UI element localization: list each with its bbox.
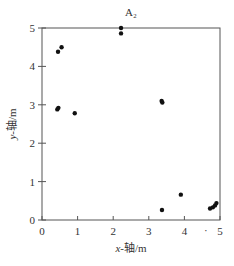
y-tick-label: 2 [30,137,36,149]
y-tick-label: 3 [30,99,36,111]
data-point [56,50,60,54]
x-tick-label: 0 [39,225,45,237]
x-axis-title: x-轴/m [114,241,147,254]
x-tick-label: 5 [217,225,223,237]
chart-title: A₂ [125,6,137,18]
annotation-dot: · [204,224,208,236]
data-point [73,111,77,115]
x-tick-label: 4 [182,225,188,237]
data-point [179,192,183,196]
data-point [119,26,123,30]
y-tick-label: 0 [30,214,36,226]
y-tick-label: 4 [30,60,36,72]
data-point [59,45,63,49]
data-point [56,106,60,110]
data-point [119,31,123,35]
y-axis-title: y-轴/m [5,108,18,141]
data-point [160,208,164,212]
data-point [160,100,164,104]
y-tick-label: 5 [30,22,36,34]
x-tick-label: 2 [110,225,116,237]
plot-frame [42,28,220,220]
y-axis: 012345 [30,22,47,226]
data-points [55,26,219,212]
x-tick-label: 3 [146,225,152,237]
x-axis: 012345 [39,216,223,237]
data-point [214,201,218,205]
x-tick-label: 1 [75,225,81,237]
scatter-chart: A₂ 012345 012345 x-轴/m y-轴/m · [0,0,234,266]
y-tick-label: 1 [30,176,36,188]
